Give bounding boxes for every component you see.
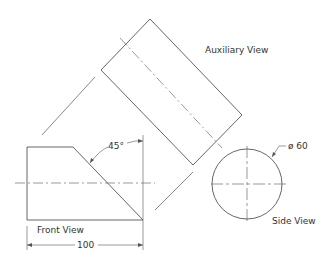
- dim-arrow-left: [27, 243, 32, 247]
- auxiliary-view-label: Auxiliary View: [205, 45, 268, 55]
- diameter-dimension-text: ø 60: [288, 141, 308, 151]
- dim-arrow-right: [138, 243, 143, 247]
- width-dimension-text: 100: [77, 240, 94, 250]
- angle-dimension-text: 45°: [108, 141, 124, 151]
- projection-line-right: [155, 172, 193, 210]
- front-view-label: Front View: [37, 225, 84, 235]
- front-view-outline: [27, 147, 143, 220]
- technical-drawing: Auxiliary View Front View Side View 45° …: [0, 0, 334, 259]
- side-view-label: Side View: [272, 216, 316, 226]
- projection-line-left: [42, 77, 95, 135]
- angle-arrow-right: [138, 139, 143, 143]
- diameter-arrow: [272, 152, 276, 157]
